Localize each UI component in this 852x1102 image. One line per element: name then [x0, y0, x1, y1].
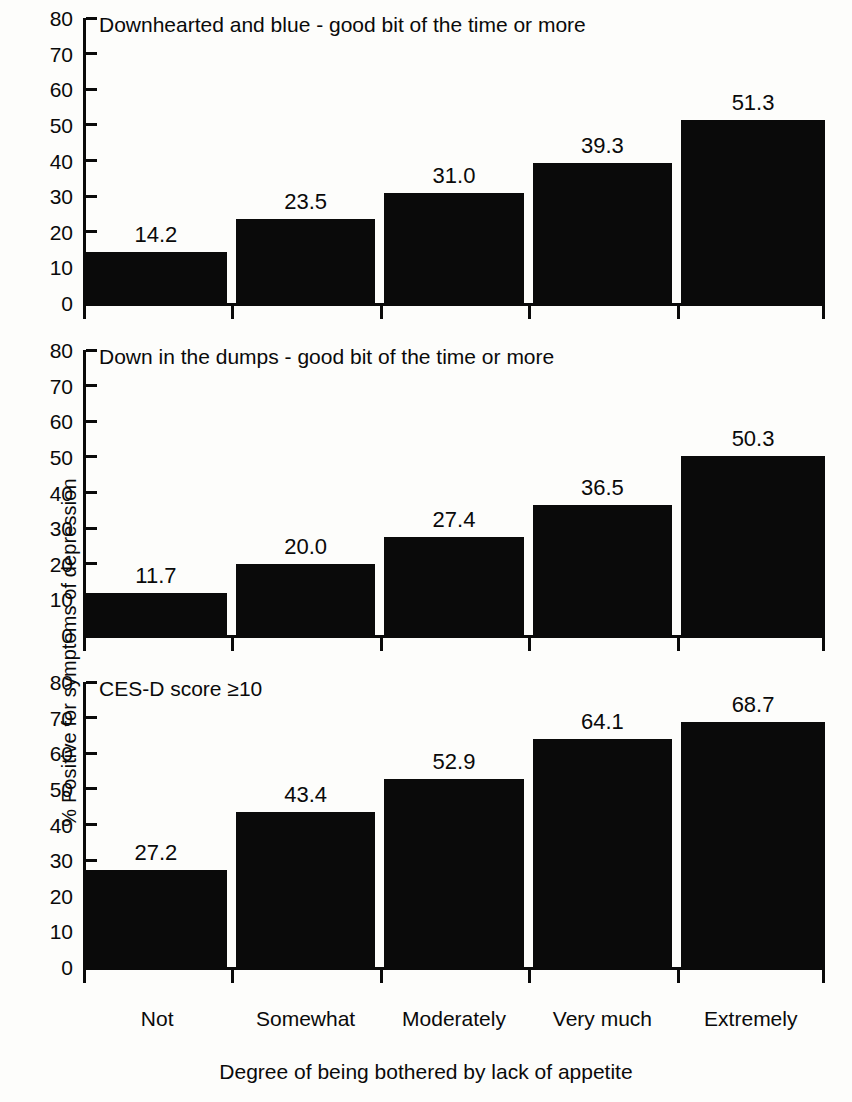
- x-axis-tick: [83, 970, 86, 983]
- y-axis-tick-label: 80: [17, 8, 73, 29]
- x-axis-category-label: Moderately: [402, 1008, 506, 1030]
- y-axis-tick-label: 0: [17, 625, 73, 646]
- y-axis-tick: [86, 384, 97, 387]
- chart-figure: % Positive for symptoms of depression 01…: [0, 0, 852, 1102]
- y-axis-tick-label: 20: [17, 221, 73, 242]
- bar: [533, 163, 672, 303]
- bar-value-label: 31.0: [433, 165, 476, 187]
- y-axis-tick: [86, 859, 97, 862]
- y-axis-tick-label: 50: [17, 446, 73, 467]
- bar-value-label: 36.5: [581, 477, 624, 499]
- y-axis-tick-label: 40: [17, 150, 73, 171]
- plot-area: 0102030405060708027.243.452.964.168.7: [83, 682, 825, 967]
- chart-panel-1: 0102030405060708014.223.531.039.351.3Dow…: [0, 6, 852, 322]
- y-axis-tick-label: 30: [17, 518, 73, 539]
- y-axis-tick-label: 40: [17, 482, 73, 503]
- y-axis-tick-label: 10: [17, 589, 73, 610]
- bar-value-label: 11.7: [135, 565, 176, 587]
- x-axis-category-labels: NotSomewhatModeratelyVery muchExtremely: [0, 1008, 852, 1040]
- panel-title: Down in the dumps - good bit of the time…: [99, 346, 554, 368]
- x-axis-tick: [231, 306, 234, 319]
- bar-value-label: 23.5: [284, 191, 327, 213]
- x-axis-tick: [677, 306, 680, 319]
- bar: [384, 193, 523, 303]
- bar-value-label: 52.9: [433, 751, 476, 773]
- y-axis-tick: [86, 123, 97, 126]
- y-axis-tick-label: 10: [17, 921, 73, 942]
- x-axis-category-label: Somewhat: [256, 1008, 355, 1030]
- y-axis-tick-label: 50: [17, 114, 73, 135]
- x-axis-category-label: Not: [141, 1008, 174, 1030]
- x-axis-tick: [380, 306, 383, 319]
- chart-panel-2: 0102030405060708011.720.027.436.550.3Dow…: [0, 338, 852, 654]
- y-axis-tick-label: 80: [17, 672, 73, 693]
- bar: [85, 593, 227, 635]
- x-axis-category-label: Extremely: [704, 1008, 797, 1030]
- x-axis-tick: [231, 638, 234, 651]
- x-axis-line: [83, 635, 825, 638]
- bar-value-label: 20.0: [284, 536, 327, 558]
- panel-title: Downhearted and blue - good bit of the t…: [99, 14, 586, 36]
- x-axis-tick: [231, 970, 234, 983]
- y-axis-tick-label: 70: [17, 43, 73, 64]
- bar-value-label: 64.1: [581, 711, 624, 733]
- y-axis-tick-label: 20: [17, 885, 73, 906]
- bar-value-label: 68.7: [732, 694, 775, 716]
- bar-value-label: 51.3: [732, 92, 775, 114]
- plot-area: 0102030405060708014.223.531.039.351.3: [83, 18, 825, 303]
- x-axis-line: [83, 303, 825, 306]
- x-axis-title: Degree of being bothered by lack of appe…: [0, 1060, 852, 1084]
- x-axis-tick: [528, 970, 531, 983]
- chart-panel-3: 0102030405060708027.243.452.964.168.7CES…: [0, 670, 852, 986]
- bar: [236, 812, 375, 967]
- y-axis-tick: [86, 420, 97, 423]
- x-axis-tick: [380, 970, 383, 983]
- x-axis-tick: [83, 638, 86, 651]
- bar: [236, 564, 375, 635]
- x-axis-tick: [822, 306, 825, 319]
- y-axis-tick: [86, 455, 97, 458]
- y-axis-tick: [86, 527, 97, 530]
- y-axis-tick: [86, 349, 97, 352]
- y-axis-tick-label: 70: [17, 707, 73, 728]
- bar: [533, 739, 672, 967]
- bar: [85, 870, 227, 967]
- y-axis-tick: [86, 491, 97, 494]
- y-axis-tick: [86, 562, 97, 565]
- y-axis-tick-label: 20: [17, 553, 73, 574]
- bar-value-label: 43.4: [284, 784, 327, 806]
- x-axis-tick: [528, 306, 531, 319]
- x-axis-category-label: Very much: [553, 1008, 652, 1030]
- x-axis-tick: [677, 638, 680, 651]
- x-axis-tick: [528, 638, 531, 651]
- x-axis-tick: [822, 970, 825, 983]
- y-axis-tick: [86, 17, 97, 20]
- x-axis-tick: [822, 638, 825, 651]
- bar: [85, 252, 227, 303]
- x-axis-tick: [83, 306, 86, 319]
- y-axis-tick-label: 30: [17, 850, 73, 871]
- y-axis-tick: [86, 52, 97, 55]
- bar-value-label: 14.2: [135, 224, 178, 246]
- x-axis-tick: [380, 638, 383, 651]
- y-axis-tick-label: 60: [17, 411, 73, 432]
- bar: [384, 779, 523, 967]
- y-axis-tick-label: 40: [17, 814, 73, 835]
- y-axis-tick: [86, 88, 97, 91]
- x-axis-line: [83, 967, 825, 970]
- y-axis-tick-label: 30: [17, 186, 73, 207]
- bar: [681, 456, 825, 635]
- y-axis-tick-label: 60: [17, 743, 73, 764]
- plot-area: 0102030405060708011.720.027.436.550.3: [83, 350, 825, 635]
- y-axis-tick-label: 10: [17, 257, 73, 278]
- bar: [681, 722, 825, 967]
- y-axis-tick-label: 0: [17, 957, 73, 978]
- y-axis-tick: [86, 823, 97, 826]
- y-axis-tick: [86, 752, 97, 755]
- y-axis-tick-label: 50: [17, 778, 73, 799]
- y-axis-tick-label: 70: [17, 375, 73, 396]
- bar-value-label: 27.4: [433, 509, 476, 531]
- y-axis-tick: [86, 716, 97, 719]
- bar: [681, 120, 825, 303]
- y-axis-tick-label: 60: [17, 79, 73, 100]
